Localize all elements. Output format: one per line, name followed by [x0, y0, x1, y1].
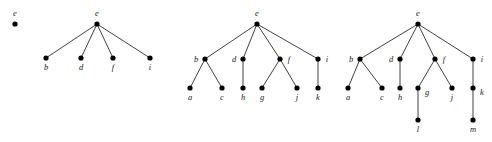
tree-node: [379, 85, 384, 90]
node-label: e: [416, 8, 420, 18]
node-label: f: [112, 62, 116, 72]
trees-group: eebdfiebdfiachgjkebdfiachgjklm: [12, 8, 484, 134]
node-label: j: [450, 92, 454, 102]
node-label: f: [288, 54, 292, 64]
node-label: k: [480, 87, 484, 97]
tree-node: [294, 85, 299, 90]
tree-edge: [205, 59, 222, 88]
tree-node: [345, 85, 350, 90]
node-label: e: [13, 8, 17, 18]
tree-node: [357, 56, 362, 61]
tree-node: [397, 85, 402, 90]
tree-node: [315, 56, 320, 61]
node-label: i: [326, 54, 329, 64]
tree-node: [147, 55, 152, 60]
tree-node: [254, 21, 259, 26]
tree-node: [219, 85, 224, 90]
tree-edge: [418, 59, 435, 88]
tree-node: [259, 85, 264, 90]
tree-edges: [190, 24, 318, 88]
node-label: j: [295, 92, 299, 102]
node-label: l: [417, 124, 420, 134]
node-label: b: [44, 62, 48, 72]
node-label: d: [79, 62, 84, 72]
tree-node: [43, 55, 48, 60]
tree-node: [202, 56, 207, 61]
tree-node: [470, 85, 475, 90]
node-label: b: [194, 54, 198, 64]
tree-node: [415, 117, 420, 122]
node-label: m: [470, 124, 476, 134]
tree-node: [110, 55, 115, 60]
node-label: d: [389, 54, 394, 64]
tree-node: [397, 56, 402, 61]
tree-node: [78, 55, 83, 60]
node-label: i: [481, 54, 484, 64]
node-label: e: [95, 8, 99, 18]
node-label: d: [232, 54, 237, 64]
node-label: g: [425, 87, 429, 97]
tree-node: [12, 21, 17, 26]
tree-node: [94, 21, 99, 26]
node-label: i: [149, 62, 152, 72]
node-label: c: [220, 92, 224, 102]
node-label: h: [241, 92, 245, 102]
tree-node: [449, 85, 454, 90]
node-label: a: [188, 92, 192, 102]
tree-2: ebdfi: [43, 8, 152, 72]
tree-edges: [348, 24, 473, 120]
tree-node: [415, 85, 420, 90]
tree-edge: [360, 59, 382, 88]
tree-diagram-canvas: eebdfiebdfiachgjkebdfiachgjklm: [0, 0, 492, 142]
tree-edges: [46, 24, 150, 58]
node-label: e: [255, 8, 259, 18]
tree-node: [315, 85, 320, 90]
tree-node: [277, 56, 282, 61]
node-label: c: [380, 92, 384, 102]
tree-node: [240, 85, 245, 90]
tree-node: [187, 85, 192, 90]
tree-node: [470, 117, 475, 122]
tree-sequence-figure: eebdfiebdfiachgjkebdfiachgjklm: [0, 0, 492, 142]
tree-edge: [262, 59, 280, 88]
tree-edge: [257, 24, 280, 59]
node-label: h: [398, 92, 402, 102]
tree-node: [470, 56, 475, 61]
tree-node: [240, 56, 245, 61]
node-label: g: [260, 92, 264, 102]
tree-1: e: [12, 8, 17, 27]
tree-node: [432, 56, 437, 61]
node-label: a: [346, 92, 350, 102]
tree-4: ebdfiachgjklm: [345, 8, 484, 134]
node-label: k: [316, 92, 320, 102]
node-label: b: [349, 54, 353, 64]
node-label: f: [443, 54, 447, 64]
tree-3: ebdfiachgjk: [187, 8, 328, 102]
tree-node: [415, 21, 420, 26]
